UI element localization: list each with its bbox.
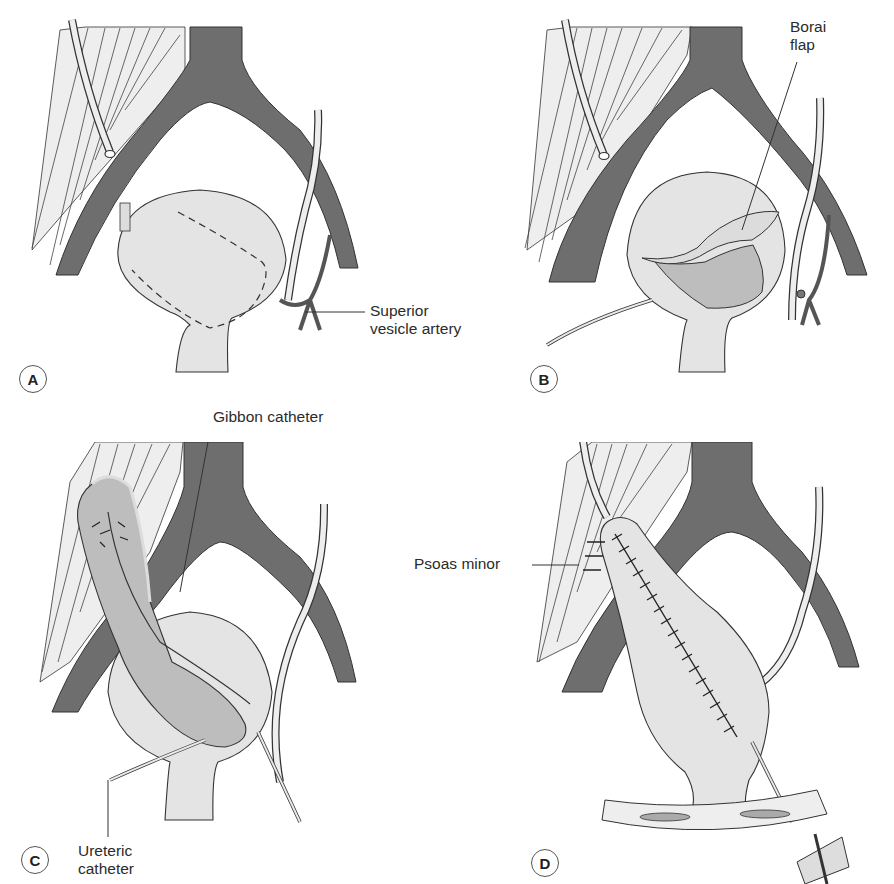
panel-d: Psoas minor D (447, 442, 894, 884)
label-ureteric-catheter: Ureteric catheter (78, 842, 134, 878)
panel-a-illustration (0, 0, 447, 442)
label-gibbon-catheter: Gibbon catheter (213, 408, 323, 426)
panel-badge-b: B (530, 365, 558, 393)
panel-d-illustration (447, 442, 894, 884)
panel-c-illustration (0, 442, 447, 884)
panel-badge-d: D (531, 849, 559, 877)
label-borai-flap: Borai flap (790, 18, 826, 54)
label-psoas-minor: Psoas minor (414, 555, 500, 573)
drain-dressing (797, 837, 849, 884)
panel-b-illustration (447, 0, 894, 442)
panel-a: Superior vesicle artery A (0, 0, 447, 442)
panel-badge-c: C (21, 846, 49, 874)
panel-badge-a: A (19, 365, 47, 393)
panel-b: Borai flap B (447, 0, 894, 442)
panel-c: Gibbon catheter Ureteric catheter C (0, 442, 447, 884)
